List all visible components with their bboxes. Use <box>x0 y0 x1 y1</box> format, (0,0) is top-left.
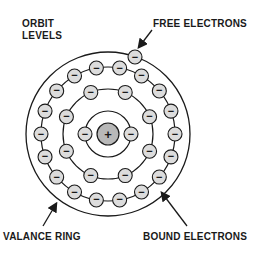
minus-icon: − <box>128 128 134 140</box>
minus-icon: − <box>132 51 138 63</box>
atom: −−−−−−−−−−−−−−−−−−−−−−−−−−−−+− <box>26 50 190 216</box>
minus-icon: − <box>146 145 152 157</box>
minus-icon: − <box>122 169 128 181</box>
orbit-levels-label: ORBIT LEVELS <box>22 18 62 42</box>
bound-electron: − <box>143 110 157 124</box>
valance-ring-arrow <box>43 204 56 226</box>
minus-icon: − <box>138 186 144 198</box>
bound-electron: − <box>68 185 82 199</box>
minus-icon: − <box>156 171 162 183</box>
bound-electron: − <box>135 185 149 199</box>
bound-electron: − <box>84 85 98 99</box>
minus-icon: − <box>93 193 99 205</box>
minus-icon: − <box>38 128 44 140</box>
orbit-levels-line2: LEVELS <box>22 30 62 42</box>
minus-icon: − <box>71 186 77 198</box>
bound-electron: − <box>143 144 157 158</box>
bound-electron: − <box>34 127 48 141</box>
minus-icon: − <box>93 62 99 74</box>
minus-icon: − <box>172 128 178 140</box>
bound-electron: − <box>89 61 103 75</box>
bound-electron: − <box>135 69 149 83</box>
minus-icon: − <box>122 86 128 98</box>
minus-icon: − <box>156 84 162 96</box>
orbit-levels-line1: ORBIT <box>22 18 62 30</box>
minus-icon: − <box>42 150 48 162</box>
plus-icon: + <box>104 127 112 142</box>
bound-electron: − <box>152 170 166 184</box>
bound-electron: − <box>59 144 73 158</box>
bound-electron: − <box>164 150 178 164</box>
minus-icon: − <box>146 110 152 122</box>
bound-electron: − <box>113 61 127 75</box>
bound-electron: − <box>84 169 98 183</box>
minus-icon: − <box>116 193 122 205</box>
minus-icon: − <box>42 105 48 117</box>
nucleus: + <box>97 123 119 145</box>
free-electron: − <box>128 50 142 64</box>
valance-ring-label: VALANCE RING <box>3 231 81 243</box>
minus-icon: − <box>53 84 59 96</box>
minus-icon: − <box>168 150 174 162</box>
minus-icon: − <box>63 110 69 122</box>
bound-electron: − <box>78 127 92 141</box>
bound-electron: − <box>50 84 64 98</box>
free-electrons-arrow <box>139 30 152 47</box>
minus-icon: − <box>88 86 94 98</box>
minus-icon: − <box>82 128 88 140</box>
minus-icon: − <box>71 69 77 81</box>
free-electrons-label: FREE ELECTRONS <box>153 18 247 30</box>
bound-electron: − <box>59 110 73 124</box>
minus-icon: − <box>63 145 69 157</box>
bound-electron: − <box>38 150 52 164</box>
minus-icon: − <box>88 169 94 181</box>
bound-electron: − <box>152 84 166 98</box>
bound-electron: − <box>118 85 132 99</box>
minus-icon: − <box>168 105 174 117</box>
minus-icon: − <box>116 62 122 74</box>
bound-electron: − <box>124 127 138 141</box>
bound-electrons-arrow <box>162 193 187 226</box>
bound-electron: − <box>89 193 103 207</box>
bound-electrons-label: BOUND ELECTRONS <box>143 231 247 243</box>
bound-electron: − <box>164 104 178 118</box>
minus-icon: − <box>53 171 59 183</box>
bound-electron: − <box>168 127 182 141</box>
minus-icon: − <box>138 69 144 81</box>
bound-electron: − <box>68 69 82 83</box>
bound-electron: − <box>118 169 132 183</box>
bound-electron: − <box>113 193 127 207</box>
bound-electron: − <box>38 104 52 118</box>
bound-electron: − <box>50 170 64 184</box>
